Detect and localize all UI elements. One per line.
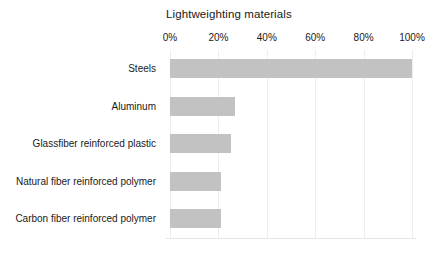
bar-row — [170, 125, 412, 163]
bars-layer — [170, 50, 412, 238]
y-category-label: Aluminum — [0, 88, 163, 126]
bar-row — [170, 50, 412, 88]
y-axis-category-labels: SteelsAluminumGlassfiber reinforced plas… — [0, 50, 163, 238]
gridline — [412, 50, 413, 238]
x-axis-tick-labels: 0%20%40%60%80%100% — [0, 32, 437, 46]
bar[interactable] — [170, 134, 231, 153]
bar[interactable] — [170, 172, 221, 191]
chart-title: Lightweighting materials — [166, 8, 416, 20]
bar-row — [170, 163, 412, 201]
bar[interactable] — [170, 97, 235, 116]
bar[interactable] — [170, 209, 221, 228]
axis-baseline — [166, 238, 416, 239]
y-category-label: Steels — [0, 50, 163, 88]
y-category-label: Natural fiber reinforced polymer — [0, 163, 163, 201]
y-category-label: Carbon fiber reinforced polymer — [0, 200, 163, 238]
bar-chart: Lightweighting materials 0%20%40%60%80%1… — [0, 0, 437, 255]
x-tick-label: 100% — [382, 32, 437, 43]
y-category-label: Glassfiber reinforced plastic — [0, 125, 163, 163]
bar-row — [170, 200, 412, 238]
bar[interactable] — [170, 59, 412, 78]
bar-row — [170, 88, 412, 126]
